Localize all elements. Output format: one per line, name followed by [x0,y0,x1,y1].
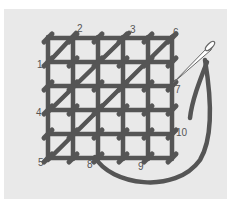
stitch-diagram: 1 2 3 4 5 6 7 8 9 10 [0,0,235,203]
thread-tail [190,62,207,118]
label-2: 2 [77,23,83,34]
label-4: 4 [36,107,42,118]
label-9: 9 [138,161,144,172]
label-5: 5 [38,157,44,168]
label-10: 10 [176,127,188,138]
label-7: 7 [175,84,181,95]
label-3: 3 [130,24,136,35]
diagonal-stitches [48,33,173,160]
label-1: 1 [37,59,43,70]
working-thread [95,60,210,182]
label-6: 6 [173,27,179,38]
label-8: 8 [87,159,93,170]
